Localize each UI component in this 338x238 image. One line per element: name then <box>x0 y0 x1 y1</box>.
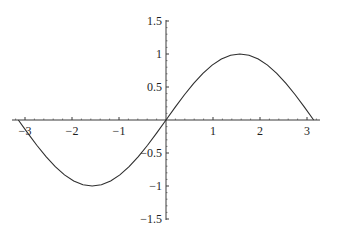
x-tick-label: 3 <box>304 124 310 138</box>
x-tick-label: −1 <box>113 124 126 138</box>
x-tick-label: −2 <box>66 124 79 138</box>
x-tick-label: −3 <box>19 124 32 138</box>
y-tick-label: −1.5 <box>140 212 162 226</box>
x-tick-labels: −3−2−1123 <box>19 124 310 138</box>
x-tick-label: 2 <box>257 124 263 138</box>
y-tick-label: 0.5 <box>147 80 162 94</box>
y-tick-label: −0.5 <box>140 146 162 160</box>
y-tick-label: 1.5 <box>147 14 162 28</box>
y-tick-label: −1 <box>149 179 162 193</box>
sine-plot: −3−2−1123 1.510.5−0.5−1−1.5 <box>0 0 338 238</box>
x-tick-label: 1 <box>210 124 216 138</box>
y-tick-label: 1 <box>156 47 162 61</box>
